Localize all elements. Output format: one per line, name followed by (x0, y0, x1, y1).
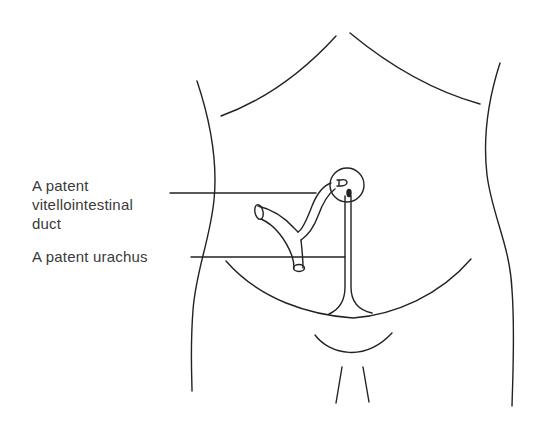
bowel-loop-inner-right (301, 240, 303, 268)
urachus-tube-right (351, 196, 372, 313)
thigh-line-left (336, 367, 342, 403)
costal-margin-right (350, 33, 480, 104)
bowel-loop-inner (261, 219, 294, 268)
urachus-tube-left (329, 196, 345, 314)
duct-opening (337, 180, 347, 186)
torso-left-outline (191, 81, 215, 391)
torso-right-outline (486, 63, 514, 406)
vitellointestinal-duct-lower (301, 189, 335, 240)
label-vitellointestinal-line1: A patent (32, 176, 89, 195)
thigh-line-right (363, 367, 369, 402)
label-vitellointestinal-line3: duct (32, 214, 61, 233)
inguinal-arc (226, 259, 471, 318)
bowel-loop-outer (258, 206, 298, 232)
urachus-opening (347, 190, 351, 197)
label-urachus: A patent urachus (32, 247, 148, 266)
pubic-curve (315, 333, 392, 352)
umbilicus-circle (330, 168, 364, 202)
costal-margin-left (221, 36, 336, 116)
diagram-canvas: A patent vitellointestinal duct A patent… (0, 0, 547, 424)
label-vitellointestinal-line2: vitellointestinal (32, 195, 133, 214)
